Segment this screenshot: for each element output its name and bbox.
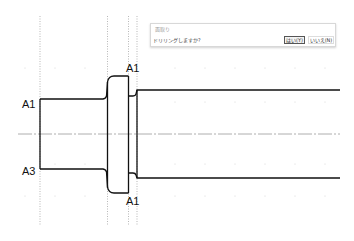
chamfer-drilling-dialog: 面取り ドリリングしますか? はい(Y) いいえ(N) <box>150 23 336 47</box>
dialog-title: 面取り <box>155 26 170 32</box>
yes-button[interactable]: はい(Y) <box>284 36 305 44</box>
label-a1-left: A1 <box>22 98 35 110</box>
no-button[interactable]: いいえ(N) <box>308 36 334 44</box>
label-a1-flange-bottom: A1 <box>126 195 139 207</box>
shaft-profile[interactable] <box>40 76 340 193</box>
label-a1-flange-top: A1 <box>126 62 139 74</box>
dialog-message: ドリリングしますか? <box>153 37 201 43</box>
label-a3-left: A3 <box>22 165 35 177</box>
grid-dots <box>24 67 325 196</box>
construction-lines <box>40 16 137 226</box>
